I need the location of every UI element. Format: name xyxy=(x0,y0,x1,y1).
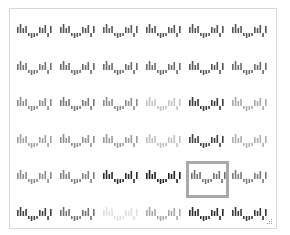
column-sparkline-icon xyxy=(17,95,53,115)
sparkline-style-r6-c4[interactable] xyxy=(143,198,186,235)
column-sparkline-icon xyxy=(17,22,53,42)
column-sparkline-icon xyxy=(60,95,96,115)
sparkline-style-r3-c4[interactable] xyxy=(143,88,186,125)
column-sparkline-icon xyxy=(103,168,139,188)
column-sparkline-icon xyxy=(232,95,268,115)
sparkline-style-r2-c5[interactable] xyxy=(186,52,229,89)
sparkline-style-r1-c1[interactable] xyxy=(14,15,57,52)
column-sparkline-icon xyxy=(146,132,182,152)
sparkline-style-r5-c4[interactable] xyxy=(143,161,186,198)
column-sparkline-icon xyxy=(17,168,53,188)
column-sparkline-icon xyxy=(191,168,227,188)
sparkline-style-r6-c2[interactable] xyxy=(57,198,100,235)
resize-grip-icon[interactable] xyxy=(265,217,273,225)
sparkline-style-r6-c5[interactable] xyxy=(186,198,229,235)
sparkline-style-r5-c3[interactable] xyxy=(100,161,143,198)
sparkline-style-r6-c1[interactable] xyxy=(14,198,57,235)
sparkline-style-r2-c2[interactable] xyxy=(57,52,100,89)
sparkline-style-r4-c5[interactable] xyxy=(186,125,229,162)
sparkline-style-r6-c3[interactable] xyxy=(100,198,143,235)
sparkline-style-r6-c6[interactable] xyxy=(229,198,272,235)
column-sparkline-icon xyxy=(17,59,53,79)
column-sparkline-icon xyxy=(232,59,268,79)
sparkline-style-r4-c1[interactable] xyxy=(14,125,57,162)
column-sparkline-icon xyxy=(103,132,139,152)
sparkline-style-r2-c3[interactable] xyxy=(100,52,143,89)
column-sparkline-icon xyxy=(189,22,225,42)
sparkline-style-r4-c6[interactable] xyxy=(229,125,272,162)
sparkline-style-r2-c6[interactable] xyxy=(229,52,272,89)
sparkline-style-r5-c5[interactable] xyxy=(186,161,229,198)
sparkline-style-r3-c6[interactable] xyxy=(229,88,272,125)
column-sparkline-icon xyxy=(60,205,96,225)
column-sparkline-icon xyxy=(60,168,96,188)
sparkline-style-r3-c2[interactable] xyxy=(57,88,100,125)
column-sparkline-icon xyxy=(103,95,139,115)
column-sparkline-icon xyxy=(146,95,182,115)
sparkline-style-r4-c2[interactable] xyxy=(57,125,100,162)
column-sparkline-icon xyxy=(189,95,225,115)
sparkline-style-r4-c3[interactable] xyxy=(100,125,143,162)
column-sparkline-icon xyxy=(146,22,182,42)
sparkline-style-r5-c2[interactable] xyxy=(57,161,100,198)
column-sparkline-icon xyxy=(146,205,182,225)
sparkline-style-r3-c1[interactable] xyxy=(14,88,57,125)
style-grid xyxy=(14,15,272,234)
sparkline-style-r5-c6[interactable] xyxy=(229,161,272,198)
sparkline-style-r1-c2[interactable] xyxy=(57,15,100,52)
column-sparkline-icon xyxy=(60,22,96,42)
sparkline-style-r1-c3[interactable] xyxy=(100,15,143,52)
column-sparkline-icon xyxy=(17,205,53,225)
column-sparkline-icon xyxy=(103,59,139,79)
column-sparkline-icon xyxy=(60,59,96,79)
column-sparkline-icon xyxy=(17,132,53,152)
column-sparkline-icon xyxy=(146,168,182,188)
column-sparkline-icon xyxy=(232,168,268,188)
sparkline-style-r5-c1[interactable] xyxy=(14,161,57,198)
sparkline-style-r1-c5[interactable] xyxy=(186,15,229,52)
column-sparkline-icon xyxy=(232,205,268,225)
sparkline-style-r2-c4[interactable] xyxy=(143,52,186,89)
sparkline-style-r1-c4[interactable] xyxy=(143,15,186,52)
sparkline-style-r4-c4[interactable] xyxy=(143,125,186,162)
column-sparkline-icon xyxy=(146,59,182,79)
column-sparkline-icon xyxy=(189,132,225,152)
column-sparkline-icon xyxy=(189,205,225,225)
sparkline-style-gallery xyxy=(9,8,277,229)
column-sparkline-icon xyxy=(189,59,225,79)
column-sparkline-icon xyxy=(232,132,268,152)
sparkline-style-r3-c3[interactable] xyxy=(100,88,143,125)
sparkline-style-r2-c1[interactable] xyxy=(14,52,57,89)
column-sparkline-icon xyxy=(60,132,96,152)
column-sparkline-icon xyxy=(232,22,268,42)
sparkline-style-r3-c5[interactable] xyxy=(186,88,229,125)
column-sparkline-icon xyxy=(103,22,139,42)
sparkline-style-r1-c6[interactable] xyxy=(229,15,272,52)
column-sparkline-icon xyxy=(103,205,139,225)
